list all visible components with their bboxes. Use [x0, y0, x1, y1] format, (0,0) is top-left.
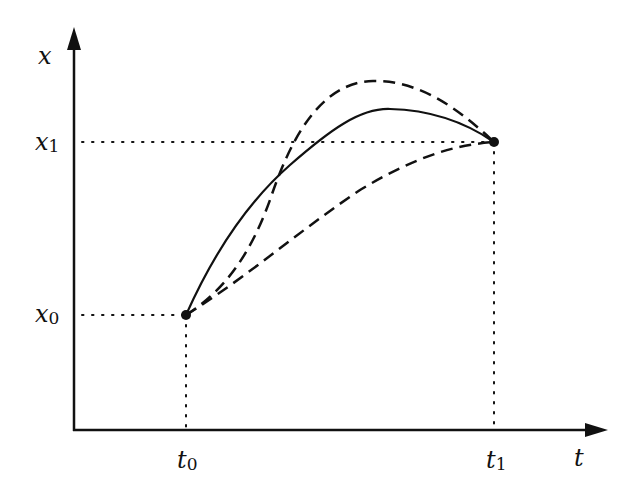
- diagram-canvas: x t x1 x0 t0 t1: [0, 0, 638, 486]
- t1-label-main: t: [486, 446, 496, 474]
- x1-label-sub: 1: [49, 136, 60, 156]
- vertical-axis-label: x: [38, 42, 52, 70]
- upper-dashed-curve: [186, 81, 494, 315]
- t0-label-main: t: [177, 446, 187, 474]
- x0-label-sub: 0: [49, 308, 60, 328]
- horizontal-axis-label: t: [574, 444, 584, 472]
- horizontal-axis-arrow-icon: [585, 423, 608, 437]
- t1-label: t1: [486, 446, 506, 474]
- x1-label: x1: [35, 128, 59, 156]
- x1-label-main: x: [35, 128, 49, 156]
- t0-label-sub: 0: [187, 454, 198, 474]
- lower-dashed-curve: [186, 142, 494, 315]
- t0-label: t0: [177, 446, 197, 474]
- end-point: [489, 137, 499, 147]
- start-point: [181, 310, 191, 320]
- x0-label-main: x: [35, 300, 49, 328]
- x0-label: x0: [35, 300, 59, 328]
- t1-label-sub: 1: [496, 454, 507, 474]
- solid-curve: [186, 109, 494, 315]
- vertical-axis-arrow-icon: [67, 27, 81, 50]
